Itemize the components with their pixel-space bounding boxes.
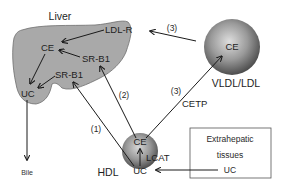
liver-uc-label: UC xyxy=(21,88,35,99)
rct-diagram: Liver LDL-R CE SR-B1 SR-B1 UC Bile CE VL… xyxy=(0,0,293,190)
srb1-upper-label: SR-B1 xyxy=(82,53,110,64)
cetp-label: CETP xyxy=(182,98,207,109)
extrahepatic-label-line2: tissues xyxy=(217,150,243,160)
pathway-3-lower-label: (3) xyxy=(171,86,182,96)
ldlr-label: LDL-R xyxy=(105,24,133,35)
vldl-ldl-label: VLDL/LDL xyxy=(212,77,261,89)
hdl-label: HDL xyxy=(97,166,118,178)
pathway-2-label: (2) xyxy=(119,90,130,100)
vldl-ce-label: CE xyxy=(225,41,238,52)
extrahepatic-label-line1: Extrahepatic xyxy=(206,134,254,144)
extrahepatic-uc-label: UC xyxy=(224,165,236,175)
srb1-lower-label: SR-B1 xyxy=(55,69,83,80)
liver-ce-label: CE xyxy=(41,42,54,53)
bile-label: Bile xyxy=(21,169,33,176)
pathway-1-label: (1) xyxy=(91,124,102,134)
liver-label: Liver xyxy=(49,10,72,22)
hdl-uc-label: UC xyxy=(133,165,147,176)
arrow-hdl-to-vldl-cetp xyxy=(146,56,222,138)
pathway-3-upper-label: (3) xyxy=(167,23,178,33)
lcat-label: LCAT xyxy=(146,152,170,163)
